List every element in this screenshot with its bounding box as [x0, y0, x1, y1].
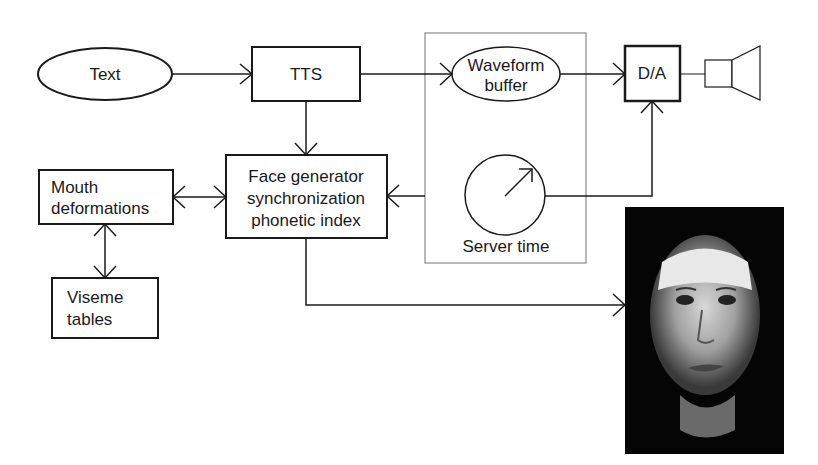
text-label: Text: [89, 65, 120, 84]
system-diagram: Text TTS Waveform buffer D/A Face genera…: [0, 0, 818, 465]
tts-label: TTS: [290, 65, 322, 84]
da-node: D/A: [625, 46, 680, 101]
viseme-label-2: tables: [67, 310, 112, 329]
waveform-buffer-node: Waveform buffer: [452, 47, 560, 101]
server-time-node: Server time: [463, 155, 550, 256]
waveform-label-1: Waveform: [468, 56, 545, 75]
mouth-deformations-node: Mouth deformations: [39, 170, 173, 224]
viseme-label-1: Viseme: [67, 288, 123, 307]
da-label: D/A: [638, 64, 667, 83]
face-generator-label-2: synchronization: [247, 189, 365, 208]
speaker-icon: [705, 46, 760, 100]
face-generator-label-1: Face generator: [248, 167, 364, 186]
face-generator-node: Face generator synchronization phonetic …: [226, 155, 387, 238]
text-node: Text: [38, 48, 172, 100]
edges: [94, 63, 705, 316]
viseme-tables-node: Viseme tables: [52, 278, 158, 338]
mouth-label-2: deformations: [51, 199, 149, 218]
mouth-label-1: Mouth: [51, 178, 98, 197]
face-generator-label-3: phonetic index: [251, 211, 361, 230]
tts-node: TTS: [252, 47, 360, 101]
face-image: [625, 207, 784, 454]
waveform-label-2: buffer: [484, 76, 528, 95]
server-time-label: Server time: [463, 237, 550, 256]
